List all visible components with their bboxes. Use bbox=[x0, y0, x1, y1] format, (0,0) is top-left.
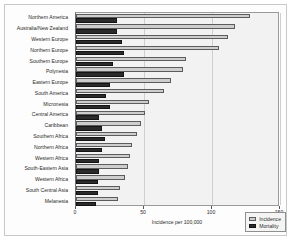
y-axis-label: Southern Africa bbox=[33, 133, 68, 139]
y-axis-label: South Central Asia bbox=[26, 187, 68, 193]
bar-incidence bbox=[76, 35, 228, 39]
bar-group bbox=[76, 186, 280, 196]
y-axis-label: Caribbean bbox=[44, 122, 68, 128]
legend-label-incidence: Incidence bbox=[259, 216, 281, 222]
bar-incidence bbox=[76, 89, 164, 93]
y-axis-label: Western Africa bbox=[35, 155, 68, 161]
y-axis-label: Western Europe bbox=[31, 36, 68, 42]
y-axis-label: Northern America bbox=[28, 14, 68, 20]
bar-mortality bbox=[76, 180, 98, 184]
bar-mortality bbox=[76, 105, 110, 109]
y-axis-label: South America bbox=[35, 90, 68, 96]
bar-incidence bbox=[76, 24, 235, 28]
bar-mortality bbox=[76, 191, 98, 195]
bar-incidence bbox=[76, 197, 118, 201]
bar-mortality bbox=[76, 18, 117, 22]
bar-group bbox=[76, 110, 280, 120]
plot-area bbox=[75, 12, 279, 206]
bar-incidence bbox=[76, 78, 171, 82]
bar-incidence bbox=[76, 186, 120, 190]
bar-group bbox=[76, 46, 280, 56]
y-axis-label: South-Eastern Asia bbox=[24, 165, 68, 171]
bar-incidence bbox=[76, 46, 219, 50]
bar-mortality bbox=[76, 94, 106, 98]
bar-incidence bbox=[76, 164, 128, 168]
y-axis-label: Melanesia bbox=[45, 198, 68, 204]
bar-mortality bbox=[76, 72, 124, 76]
bar-mortality bbox=[76, 40, 122, 44]
bar-mortality bbox=[76, 51, 124, 55]
x-tick-label: 100 bbox=[207, 209, 216, 215]
bar-group bbox=[76, 56, 280, 66]
gridline bbox=[280, 13, 281, 205]
bar-group bbox=[76, 175, 280, 185]
bar-incidence bbox=[76, 121, 141, 125]
bar-group bbox=[76, 67, 280, 77]
bar-group bbox=[76, 24, 280, 34]
bar-mortality bbox=[76, 115, 99, 119]
bar-mortality bbox=[76, 169, 99, 173]
bar-mortality bbox=[76, 62, 113, 66]
bar-mortality bbox=[76, 148, 102, 152]
bar-incidence bbox=[76, 100, 149, 104]
bar-incidence bbox=[76, 143, 132, 147]
y-axis-label: Southern Europe bbox=[29, 58, 68, 64]
bar-mortality bbox=[76, 126, 102, 130]
bar-group bbox=[76, 121, 280, 131]
bar-group bbox=[76, 89, 280, 99]
bar-group bbox=[76, 153, 280, 163]
bar-group bbox=[76, 100, 280, 110]
bar-group bbox=[76, 13, 280, 23]
y-axis-category-labels: Northern AmericaAustralia/New ZealandWes… bbox=[0, 12, 72, 206]
y-axis-label: Australia/New Zealand bbox=[17, 25, 68, 31]
y-axis-label: Central America bbox=[32, 111, 68, 117]
x-tick-label: 50 bbox=[140, 209, 146, 215]
bar-incidence bbox=[76, 154, 130, 158]
legend-item-incidence: Incidence bbox=[249, 215, 281, 222]
y-axis-label: Western Africa bbox=[35, 176, 68, 182]
bar-mortality bbox=[76, 137, 105, 141]
bar-group bbox=[76, 143, 280, 153]
bar-mortality bbox=[76, 159, 99, 163]
legend-label-mortality: Mortality bbox=[259, 223, 278, 229]
chart-legend: Incidence Mortality bbox=[245, 212, 286, 232]
legend-item-mortality: Mortality bbox=[249, 222, 281, 229]
legend-swatch-incidence-icon bbox=[249, 217, 256, 221]
bar-incidence bbox=[76, 175, 125, 179]
bar-incidence bbox=[76, 132, 137, 136]
bar-mortality bbox=[76, 83, 110, 87]
bar-group bbox=[76, 35, 280, 45]
bar-incidence bbox=[76, 67, 183, 71]
bar-group bbox=[76, 78, 280, 88]
y-axis-label: Northern Europe bbox=[30, 47, 68, 53]
y-axis-label: Eastern Europe bbox=[33, 79, 68, 85]
bar-group bbox=[76, 164, 280, 174]
bar-incidence bbox=[76, 57, 186, 61]
bar-group bbox=[76, 132, 280, 142]
chart-figure: Northern AmericaAustralia/New ZealandWes… bbox=[0, 0, 291, 240]
y-axis-label: Micronesia bbox=[43, 101, 68, 107]
legend-swatch-mortality-icon bbox=[249, 224, 256, 228]
bar-incidence bbox=[76, 14, 250, 18]
bar-mortality bbox=[76, 29, 117, 33]
bar-incidence bbox=[76, 111, 145, 115]
bar-rows bbox=[76, 13, 278, 205]
y-axis-label: Northern Africa bbox=[34, 144, 68, 150]
y-axis-label: Polynesia bbox=[46, 68, 68, 74]
x-tick-label: 0 bbox=[74, 209, 77, 215]
